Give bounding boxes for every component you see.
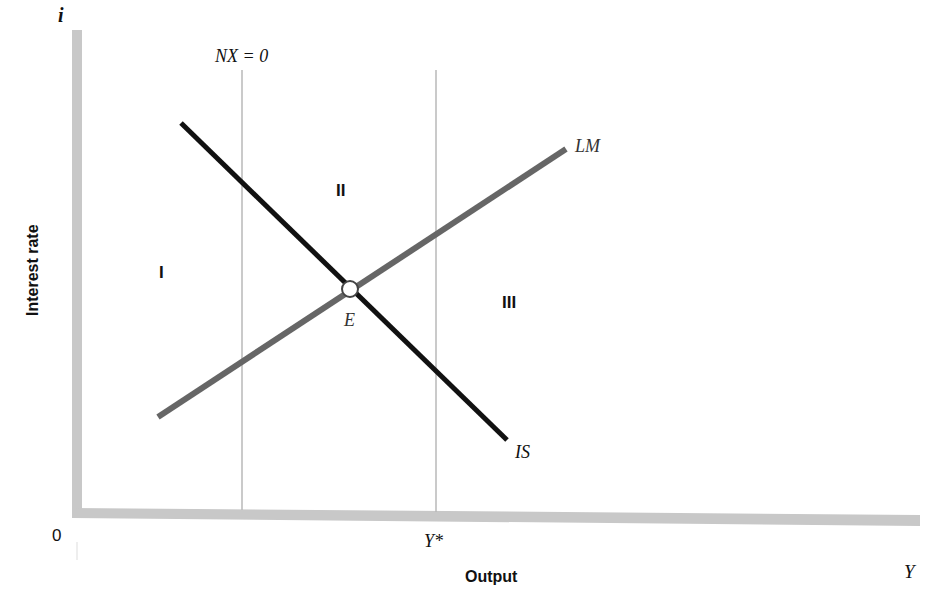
equilibrium-label: E [343, 310, 355, 330]
lm-curve [158, 149, 566, 417]
full-employment-label: Y* [424, 531, 443, 551]
nx-zero-label: NX = 0 [214, 46, 268, 66]
y-axis-label: Interest rate [24, 224, 41, 316]
y-axis-symbol: i [58, 4, 64, 26]
origin-label: 0 [52, 526, 61, 545]
equilibrium-point [342, 281, 358, 297]
region-3-label: III [502, 293, 516, 312]
islm-diagram: i NX = 0 LM II I III E IS 0 Y* Y Output … [0, 0, 941, 598]
is-label: IS [514, 442, 530, 462]
x-axis [72, 508, 920, 526]
x-axis-symbol: Y [904, 561, 917, 582]
region-1-label: I [159, 263, 164, 282]
region-2-label: II [336, 181, 345, 200]
y-axis [72, 30, 82, 518]
x-axis-label: Output [465, 568, 518, 585]
is-curve [181, 123, 507, 440]
lm-label: LM [574, 136, 601, 156]
